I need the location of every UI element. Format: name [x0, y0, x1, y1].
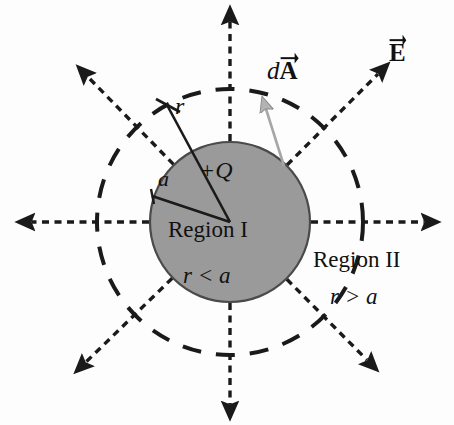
- dA-label: dA: [267, 58, 298, 83]
- charge-label: +Q: [199, 158, 233, 182]
- vector-arrow-icon: [280, 51, 299, 62]
- E-vector-glyph: E: [389, 40, 406, 65]
- figure-canvas: [0, 0, 454, 425]
- E-field-label: E: [389, 40, 406, 65]
- radius-r-label: r: [175, 94, 184, 118]
- radius-a-label: a: [158, 168, 169, 190]
- region-two-label: Region II: [313, 248, 401, 271]
- region-one-label: Region I: [168, 218, 248, 241]
- region-one-condition-label: r < a: [183, 264, 230, 287]
- gauss-law-sphere-figure: dA E r a +Q Region I r < a Region II r >…: [0, 0, 454, 425]
- vector-arrow-icon: [389, 33, 407, 44]
- radius-a-endcap: [151, 189, 154, 204]
- region-two-condition-label: r > a: [330, 285, 377, 308]
- dA-prefix: d: [267, 57, 280, 84]
- dA-vector-glyph: A: [280, 58, 298, 83]
